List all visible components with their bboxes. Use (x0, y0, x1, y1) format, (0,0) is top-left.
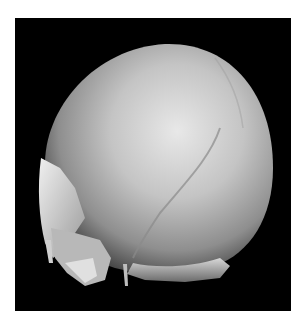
ct-render-panel (15, 18, 291, 311)
skull-render (15, 18, 291, 311)
